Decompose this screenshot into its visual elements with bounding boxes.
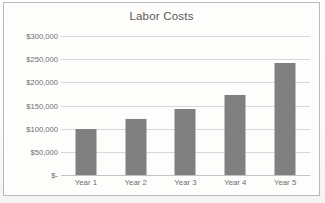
- x-axis-tick-label: Year 5: [274, 178, 296, 187]
- x-axis-tick-label: Year 1: [75, 178, 97, 187]
- gridline: [61, 175, 310, 176]
- chart-title: Labor Costs: [4, 10, 319, 22]
- bar-slot: [260, 36, 310, 175]
- x-axis-tick-label: Year 4: [224, 178, 246, 187]
- bar[interactable]: [175, 109, 196, 175]
- x-axis-tick-labels: Year 1Year 2Year 3Year 4Year 5: [61, 178, 310, 192]
- y-axis-tick-label: $100,000: [6, 124, 58, 133]
- x-axis-tick-label: Year 2: [125, 178, 147, 187]
- bar[interactable]: [125, 119, 146, 175]
- chart-container[interactable]: Labor Costs $-$50,000$100,000$150,000$20…: [3, 2, 320, 196]
- y-axis-tick-labels: $-$50,000$100,000$150,000$200,000$250,00…: [4, 36, 58, 175]
- y-axis-tick-label: $-: [6, 171, 58, 180]
- bar-slot: [210, 36, 260, 175]
- bar-slot: [161, 36, 211, 175]
- y-axis-tick-label: $250,000: [6, 55, 58, 64]
- x-axis-tick-label: Year 3: [174, 178, 196, 187]
- bar-series: [61, 36, 310, 175]
- bar[interactable]: [225, 95, 246, 175]
- plot-area: [61, 36, 310, 175]
- bar-slot: [61, 36, 111, 175]
- bar[interactable]: [275, 63, 296, 175]
- y-axis-tick-label: $200,000: [6, 78, 58, 87]
- bar[interactable]: [75, 129, 96, 175]
- y-axis-tick-label: $300,000: [6, 32, 58, 41]
- y-axis-tick-label: $50,000: [6, 147, 58, 156]
- bar-slot: [111, 36, 161, 175]
- y-axis-tick-label: $150,000: [6, 101, 58, 110]
